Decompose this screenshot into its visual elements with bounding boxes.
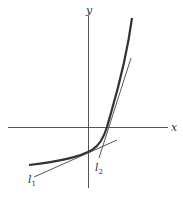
tangent-line-l2: [99, 58, 131, 158]
diagram-figure: y x l1 l2: [0, 0, 183, 197]
tangent-label-l1: l1: [28, 173, 36, 188]
tangent-label-l2: l2: [95, 161, 103, 176]
y-axis-label: y: [85, 4, 93, 17]
tangent-line-l1: [34, 140, 117, 177]
x-axis-label: x: [171, 121, 178, 134]
exponential-curve: [29, 18, 132, 165]
